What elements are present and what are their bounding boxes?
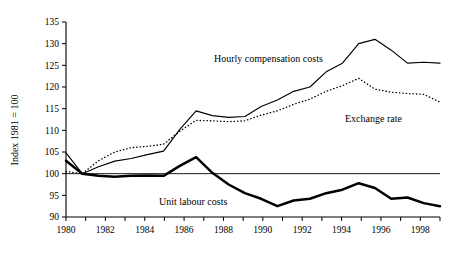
x-tick-label: 1994 <box>332 225 351 235</box>
annotation-hourly-compensation-costs: Hourly compensation costs <box>214 53 323 64</box>
x-tick-label: 1992 <box>293 225 312 235</box>
y-tick-label: 115 <box>45 104 59 114</box>
y-tick-label: 95 <box>50 191 60 201</box>
y-tick-label: 105 <box>45 147 60 157</box>
x-axis-tick-labels: 1980198219841986198819901992199419961998 <box>57 225 431 235</box>
x-tick-label: 1986 <box>175 225 194 235</box>
x-tick-label: 1996 <box>371 225 390 235</box>
x-axis-ticks <box>66 217 440 221</box>
y-tick-label: 110 <box>45 126 59 136</box>
series-line-unit-labour-costs <box>66 157 440 206</box>
x-tick-label: 1980 <box>57 225 76 235</box>
y-tick-label: 90 <box>50 212 60 222</box>
annotation-exchange-rate: Exchange rate <box>345 113 402 124</box>
y-axis-title: Index 1981 = 100 <box>9 95 20 166</box>
y-tick-label: 130 <box>45 39 60 49</box>
y-tick-label: 125 <box>45 61 60 71</box>
y-tick-label: 135 <box>45 17 60 27</box>
x-tick-label: 1988 <box>214 225 233 235</box>
x-tick-label: 1990 <box>253 225 272 235</box>
y-tick-label: 100 <box>45 169 60 179</box>
x-tick-label: 1982 <box>96 225 115 235</box>
chart-container: Index 1981 = 100 90951001051101151201251… <box>0 0 451 263</box>
y-tick-label: 120 <box>45 82 60 92</box>
annotation-unit-labour-costs: Unit labour costs <box>159 196 227 207</box>
x-tick-label: 1998 <box>411 225 430 235</box>
y-axis-tick-labels: 9095100105110115120125130135 <box>45 17 60 222</box>
x-tick-label: 1984 <box>135 225 154 235</box>
line-chart: Index 1981 = 100 90951001051101151201251… <box>0 0 451 263</box>
y-axis-ticks <box>62 22 66 217</box>
